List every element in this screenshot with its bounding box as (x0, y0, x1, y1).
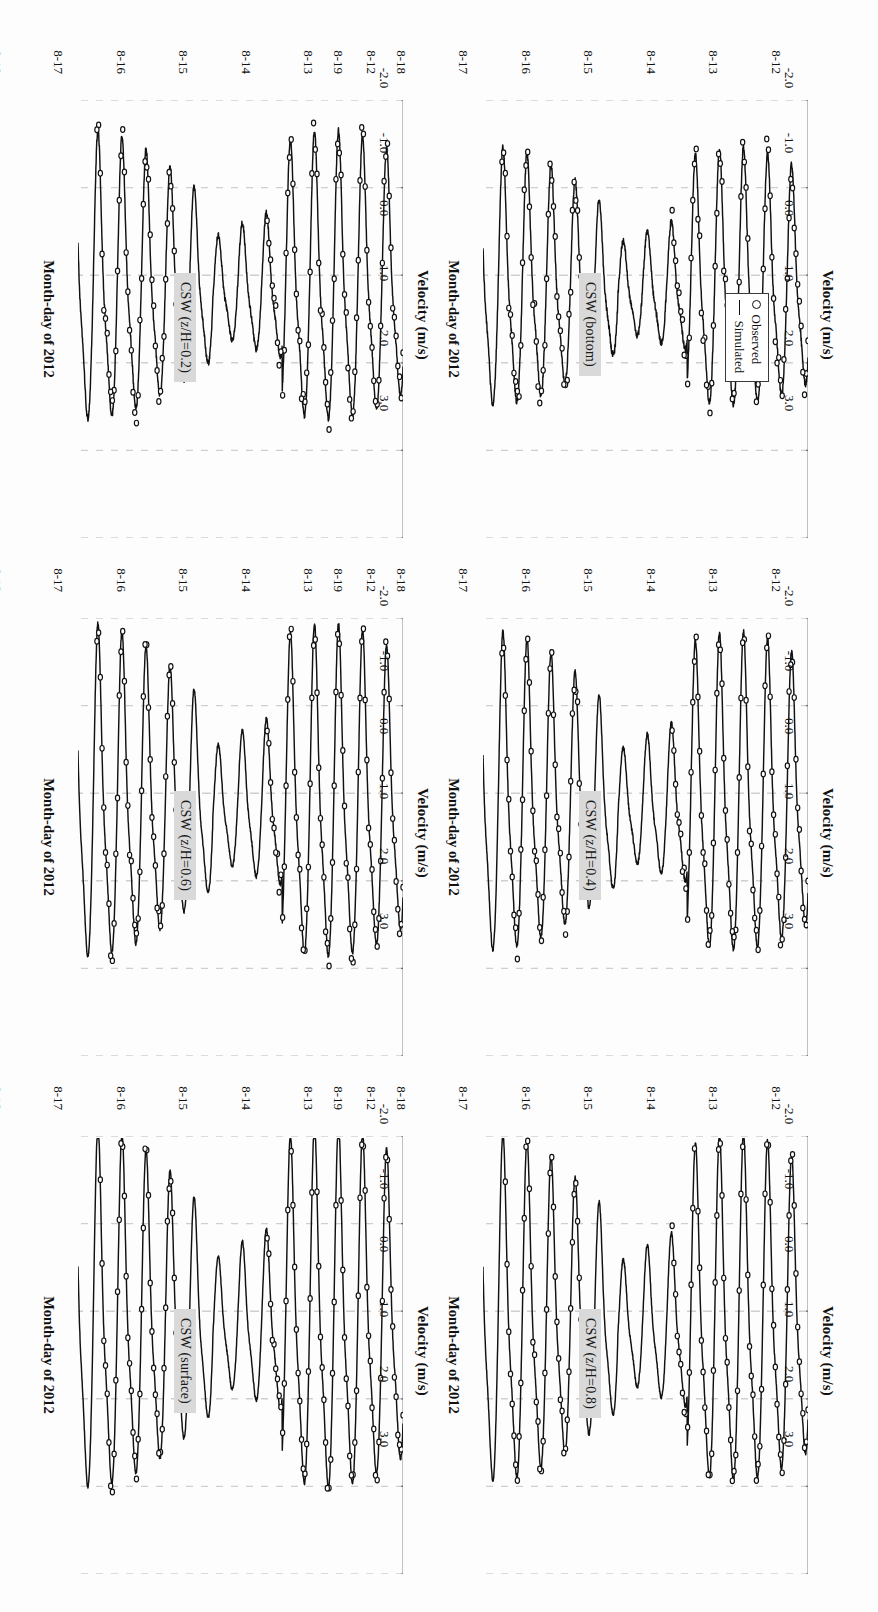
observed-point (543, 1370, 547, 1376)
plot-area (78, 100, 403, 538)
observed-point (696, 1208, 700, 1214)
observed-point (675, 1333, 679, 1339)
observed-point (766, 147, 770, 153)
observed-point (397, 374, 401, 380)
x-tick-label: 8-14 (643, 1054, 659, 1110)
observed-point (389, 245, 393, 251)
observed-point (117, 197, 121, 203)
observed-point (155, 905, 159, 911)
observed-point (804, 1439, 808, 1445)
observed-point (318, 1334, 322, 1340)
observed-point (284, 250, 288, 256)
observed-point (172, 248, 176, 254)
observed-point (794, 1271, 798, 1277)
observed-point (332, 276, 336, 282)
observed-point (680, 317, 684, 323)
observed-point (296, 1370, 300, 1376)
x-tick-label: 8-13 (300, 1054, 316, 1110)
observed-point (536, 1419, 540, 1425)
observed-point (672, 1260, 676, 1266)
y-tick-label: 1.0 (376, 265, 392, 281)
observed-point (325, 940, 329, 946)
observed-point (768, 694, 772, 700)
observed-point (138, 317, 142, 323)
observed-point (758, 908, 762, 914)
observed-point (348, 1453, 352, 1459)
y-tick-label: 3.0 (781, 913, 797, 929)
x-tick-label: 8-12 (768, 536, 784, 592)
observed-point (574, 198, 578, 204)
observed-point (334, 177, 338, 183)
observed-point (692, 161, 696, 167)
observed-point (785, 1287, 789, 1293)
observed-point (787, 1213, 791, 1219)
observed-point (577, 255, 581, 261)
y-tick-label: 2.0 (781, 330, 797, 346)
observed-point (713, 1280, 717, 1286)
observed-point (109, 953, 113, 959)
legend-label-observed: Observed (748, 315, 766, 365)
observed-point (322, 875, 326, 881)
y-axis-title-text: Velocity (m/s) (415, 270, 431, 360)
observed-point (296, 852, 300, 858)
observed-point (102, 805, 106, 811)
observed-point (299, 925, 303, 931)
y-axis-title: Velocity (m/s) (414, 1074, 431, 1578)
observed-point (701, 1369, 705, 1375)
observed-point (133, 410, 137, 416)
observed-point (806, 1407, 808, 1413)
observed-point (349, 415, 353, 421)
observed-point (553, 234, 557, 240)
observed-point (334, 1202, 338, 1208)
legend: ObservedSimulated (725, 293, 769, 383)
observed-point (756, 382, 760, 388)
observed-point (127, 327, 131, 333)
observed-point (689, 1282, 693, 1288)
observed-point (532, 1352, 536, 1358)
observed-point (336, 141, 340, 147)
observed-point (318, 308, 322, 314)
observed-point (368, 1358, 372, 1364)
observed-point (119, 1141, 123, 1147)
observed-point (520, 1287, 524, 1293)
observed-point (534, 858, 538, 864)
observed-point (268, 1301, 272, 1307)
observed-point (115, 1289, 119, 1295)
observed-point (560, 890, 564, 896)
figure-canvas: Velocity (m/s)Month-day of 2012-2.0-1.00… (0, 0, 878, 1612)
observed-point (291, 181, 295, 187)
observed-point (109, 1483, 113, 1489)
observed-point (689, 255, 693, 261)
y-axis-title-text: Velocity (m/s) (415, 788, 431, 878)
observed-point (686, 917, 690, 923)
figure-page: Velocity (m/s)Month-day of 2012-2.0-1.00… (0, 0, 878, 1612)
observed-point (522, 1215, 526, 1221)
observed-point (749, 841, 753, 847)
observed-point (332, 783, 336, 789)
observed-point (557, 1356, 561, 1362)
observed-point (526, 636, 530, 642)
observed-point (140, 276, 144, 282)
observed-point (157, 1450, 161, 1456)
observed-point (114, 348, 118, 354)
observed-point (771, 812, 775, 818)
x-tick-label: 8-18 (0, 18, 4, 74)
y-tick-label: 0.0 (781, 1236, 797, 1252)
observed-point (122, 169, 126, 175)
observed-point (172, 1275, 176, 1281)
observed-point (784, 306, 788, 312)
observed-point (562, 382, 566, 388)
observed-point (311, 643, 315, 649)
observed-point (524, 1144, 528, 1150)
observed-point (673, 781, 677, 787)
observed-point (150, 1329, 154, 1335)
x-tick-label: 8-18 (0, 536, 4, 592)
observed-point (505, 233, 509, 239)
observed-point (773, 339, 777, 345)
observed-point (152, 834, 156, 840)
y-tick-label: 0.0 (376, 718, 392, 734)
observed-point (770, 1286, 774, 1292)
observed-point (329, 916, 333, 922)
observed-point (318, 816, 322, 822)
observed-point (131, 389, 135, 395)
